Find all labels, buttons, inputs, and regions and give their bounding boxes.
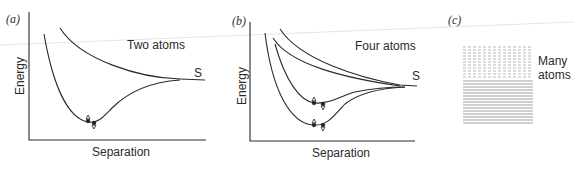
panel-a-xlabel: Separation [92, 146, 150, 158]
panel-b-ylabel: Energy [235, 67, 249, 105]
scan-artifact-line [0, 22, 574, 45]
panel-c-label: (c) [448, 13, 461, 28]
panel-a-label: (a) [6, 12, 20, 27]
panel-c-energy-band [463, 47, 533, 123]
panel-c-title-line1: Many [538, 55, 567, 67]
panel-a-plot [29, 12, 206, 140]
panel-b-label: (b) [232, 14, 246, 29]
panel-a-axes [29, 12, 206, 140]
panel-b-limit-label: S [412, 70, 420, 82]
energy-level-diagram [0, 0, 574, 171]
panel-a-ylabel: Energy [13, 57, 27, 95]
panel-a-title: Two atoms [127, 39, 185, 51]
panel-b-electrons [312, 97, 325, 131]
panel-b-xlabel: Separation [312, 147, 370, 159]
panel-a-antibonding-curve [60, 28, 205, 80]
panel-a-limit-label: S [194, 67, 202, 79]
panel-c-title-line2: atoms [538, 69, 571, 81]
panel-b-curve-1 [280, 29, 417, 86]
panel-b-title: Four atoms [355, 40, 416, 52]
